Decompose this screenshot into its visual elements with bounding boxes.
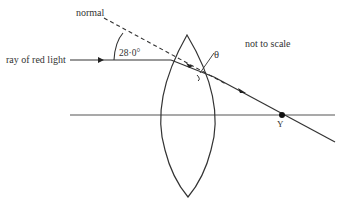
angle-label: 28·0°: [119, 48, 140, 58]
arrow-icon: [238, 88, 246, 93]
emergent-ray: [214, 77, 335, 142]
arrow-icon: [98, 57, 104, 63]
point-y: [279, 112, 285, 118]
normal-label: normal: [76, 7, 105, 18]
ray-label: ray of red light: [6, 54, 66, 65]
angle-arc-theta: [197, 75, 199, 81]
point-y-label: Y: [277, 119, 284, 129]
lens-refraction-diagram: normal ray of red light 28·0° θ not to s…: [0, 0, 342, 205]
theta-label: θ: [214, 49, 219, 60]
convex-lens: [161, 35, 215, 197]
scale-note: not to scale: [245, 38, 291, 49]
